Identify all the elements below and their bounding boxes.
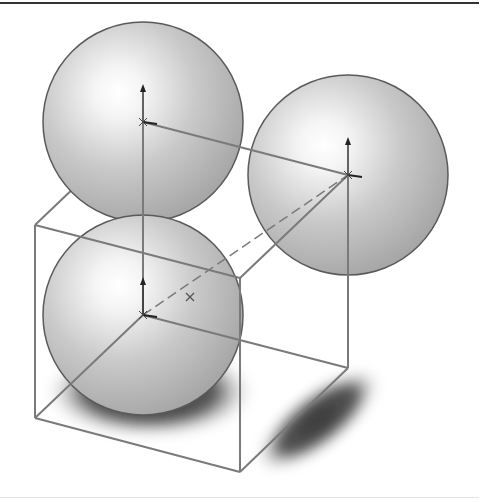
cad-viewport — [0, 0, 486, 503]
figure-frame — [0, 0, 486, 503]
sphere-layer — [43, 22, 448, 415]
shadow-right-sphere — [238, 348, 398, 491]
